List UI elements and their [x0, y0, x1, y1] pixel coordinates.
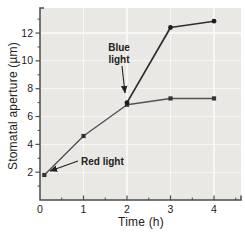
blue-light-label: Bluelight [108, 42, 130, 65]
x-tick-label: 1 [81, 203, 87, 215]
red-light-data-point [42, 173, 46, 177]
x-tick-label: 3 [168, 203, 174, 215]
x-axis-title: Time (h) [118, 215, 164, 229]
x-tick-label: 2 [124, 203, 130, 215]
y-tick-label: 6 [27, 110, 33, 122]
blue-light-data-point [212, 19, 217, 24]
y-tick-label: 8 [27, 82, 33, 94]
red-light-data-point [168, 96, 172, 100]
y-tick-label: 10 [21, 54, 33, 66]
y-tick-label: 4 [27, 138, 33, 150]
y-axis-title: Stomatal aperture (µm) [6, 42, 20, 170]
stomatal-aperture-chart: 0123424681012BluelightRed light Stomatal… [0, 0, 245, 236]
y-tick-label: 12 [21, 27, 33, 39]
red-light-data-point [81, 134, 85, 138]
x-tick-label: 0 [37, 203, 43, 215]
chart-canvas: 0123424681012BluelightRed light [0, 0, 245, 236]
y-tick-label: 2 [27, 166, 33, 178]
plot-area [40, 8, 241, 200]
blue-light-data-point [168, 25, 173, 30]
x-tick-label: 4 [211, 203, 217, 215]
red-light-data-point [212, 96, 216, 100]
red-light-label: Red light [81, 156, 124, 167]
blue-light-data-point [125, 100, 130, 105]
